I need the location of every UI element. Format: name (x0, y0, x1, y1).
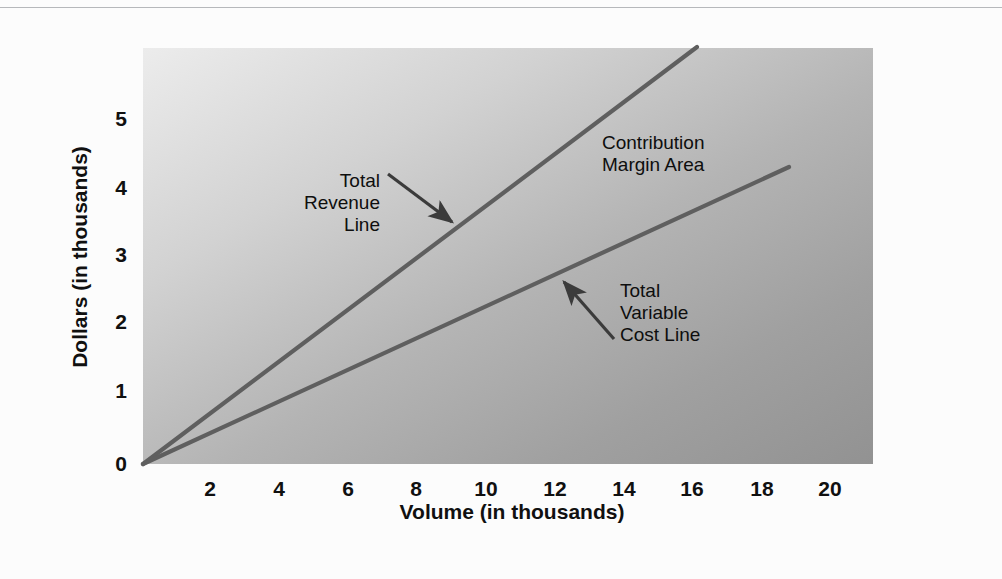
total-revenue-line-label: Total Revenue Line (220, 170, 380, 237)
ytick-label-4: 4 (93, 177, 127, 198)
total-variable-cost-line-label: Total Variable Cost Line (620, 280, 790, 347)
y-axis-title: Dollars (in thousands) (68, 87, 92, 427)
ytick-label-5: 5 (93, 108, 127, 129)
x-axis-title: Volume (in thousands) (312, 500, 712, 524)
xtick-label-14: 14 (604, 478, 644, 499)
xtick-label-16: 16 (672, 478, 712, 499)
xtick-label-8: 8 (396, 478, 436, 499)
ytick-label-3: 3 (93, 244, 127, 265)
xtick-label-18: 18 (742, 478, 782, 499)
contribution-margin-area-label: Contribution Margin Area (602, 132, 832, 176)
xtick-label-20: 20 (810, 478, 850, 499)
plot-area-background (143, 48, 873, 464)
xtick-label-6: 6 (328, 478, 368, 499)
xtick-label-10: 10 (466, 478, 506, 499)
ytick-label-0: 0 (93, 453, 127, 474)
ytick-label-2: 2 (93, 311, 127, 332)
xtick-label-12: 12 (535, 478, 575, 499)
ytick-label-1: 1 (93, 380, 127, 401)
xtick-label-4: 4 (259, 478, 299, 499)
figure-container: 5 4 3 2 1 0 2 4 6 8 10 12 14 16 18 20 Vo… (0, 0, 1002, 579)
xtick-label-2: 2 (190, 478, 230, 499)
